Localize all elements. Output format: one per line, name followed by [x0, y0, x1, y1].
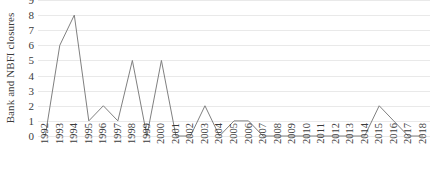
x-tick-label: 1999: [141, 123, 153, 161]
y-tick-label: 7: [29, 25, 35, 36]
y-tick-label: 3: [29, 85, 35, 96]
x-tick-label: 2013: [344, 123, 356, 161]
line-chart: Bank and NBFI closures 0123456789 199219…: [0, 0, 433, 174]
x-tick-label: 2002: [184, 123, 196, 161]
x-tick-label: 2007: [257, 123, 269, 161]
x-tick-label: 2011: [315, 123, 327, 161]
y-tick-label: 1: [29, 115, 35, 126]
x-axis-tick-labels: 1992199319941995199619971998199920002001…: [38, 136, 430, 174]
x-tick-label: 2006: [243, 123, 255, 161]
y-tick-label: 6: [29, 40, 35, 51]
x-tick-label: 1997: [112, 123, 124, 161]
series-polyline: [45, 15, 422, 136]
x-tick-label: 2012: [330, 123, 342, 161]
x-tick-label: 2005: [228, 123, 240, 161]
y-axis-title-text: Bank and NBFI closures: [4, 13, 16, 124]
y-tick-label: 0: [29, 131, 35, 142]
y-axis-tick-labels: 0123456789: [20, 0, 36, 136]
y-axis-title: Bank and NBFI closures: [0, 0, 20, 136]
x-tick-label: 1995: [83, 123, 95, 161]
x-tick-label: 2015: [373, 123, 385, 161]
x-tick-label: 2018: [417, 123, 429, 161]
x-tick-label: 2008: [272, 123, 284, 161]
x-tick-label: 2009: [286, 123, 298, 161]
x-tick-label: 1996: [97, 123, 109, 161]
x-tick-label: 1998: [126, 123, 138, 161]
data-series-line: [38, 0, 430, 136]
y-tick-label: 4: [29, 70, 35, 81]
x-tick-label: 2014: [359, 123, 371, 161]
y-tick-label: 2: [29, 100, 35, 111]
x-tick-label: 2016: [388, 123, 400, 161]
x-tick-label: 1993: [54, 123, 66, 161]
x-tick-label: 2004: [213, 123, 225, 161]
plot-area: [38, 0, 430, 136]
x-tick-label: 2017: [402, 123, 414, 161]
y-tick-label: 5: [29, 55, 35, 66]
x-tick-label: 2000: [155, 123, 167, 161]
x-tick-label: 1992: [39, 123, 51, 161]
y-tick-label: 9: [29, 0, 35, 6]
y-tick-label: 8: [29, 10, 35, 21]
x-tick-label: 2010: [301, 123, 313, 161]
x-tick-label: 2003: [199, 123, 211, 161]
x-tick-label: 2001: [170, 123, 182, 161]
x-tick-label: 1994: [68, 123, 80, 161]
